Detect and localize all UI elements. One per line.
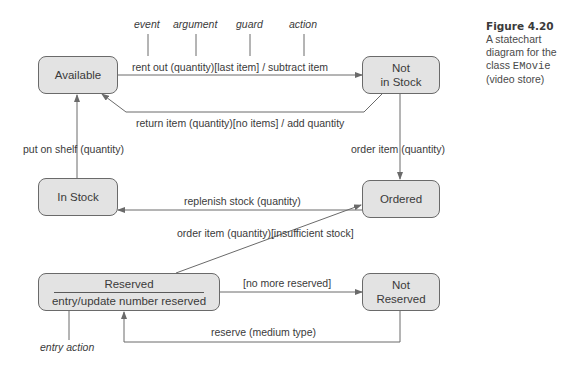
annotation-argument: argument	[173, 18, 217, 30]
annotation-action: action	[289, 18, 317, 30]
transition-order-item: order item (quantity)	[351, 143, 445, 155]
state-available-label: Available	[55, 68, 101, 82]
state-available[interactable]: Available	[38, 56, 118, 94]
state-not-reserved-line2: Reserved	[376, 292, 425, 306]
state-reserved-divider	[54, 292, 204, 293]
transition-rent-out: rent out (quantity)[last item] / subtrac…	[132, 61, 328, 73]
state-reserved-label: Reserved	[104, 277, 153, 291]
transition-return-item: return item (quantity)[no items] / add q…	[136, 117, 344, 129]
state-ordered-label: Ordered	[380, 192, 422, 206]
annotation-event: event	[134, 18, 160, 30]
caption-class-name: EMovie	[513, 60, 551, 72]
state-not-in-stock[interactable]: Not in Stock	[362, 56, 440, 94]
state-not-reserved-line1: Not	[392, 278, 410, 292]
transition-reserve: reserve (medium type)	[211, 326, 316, 338]
state-in-stock-label: In Stock	[57, 190, 99, 204]
caption-line2: diagram for the	[486, 46, 557, 59]
state-not-in-stock-line2: in Stock	[381, 75, 422, 89]
transition-put-on-shelf: put on shelf (quantity)	[23, 143, 124, 155]
caption-line1: A statechart	[486, 33, 557, 46]
state-not-in-stock-line1: Not	[392, 61, 410, 75]
annotation-guard: guard	[236, 18, 263, 30]
state-not-reserved[interactable]: Not Reserved	[362, 273, 440, 311]
caption-line4: (video store)	[486, 73, 557, 86]
state-reserved-entry: entry/update number reserved	[52, 294, 206, 308]
state-ordered[interactable]: Ordered	[362, 180, 440, 218]
transition-no-more-reserved: [no more reserved]	[243, 277, 331, 289]
state-reserved[interactable]: Reserved entry/update number reserved	[38, 273, 220, 311]
state-in-stock[interactable]: In Stock	[38, 178, 118, 216]
annotation-entry-action: entry action	[40, 341, 94, 353]
caption-line3-prefix: class	[486, 59, 513, 71]
transition-order-insufficient: order item (quantity)[insufficient stock…	[177, 227, 354, 239]
transition-replenish: replenish stock (quantity)	[184, 195, 301, 207]
caption-line3: class EMovie	[486, 59, 557, 73]
figure-caption: Figure 4.20 A statechart diagram for the…	[486, 20, 557, 86]
figure-label: Figure 4.20	[486, 20, 557, 33]
